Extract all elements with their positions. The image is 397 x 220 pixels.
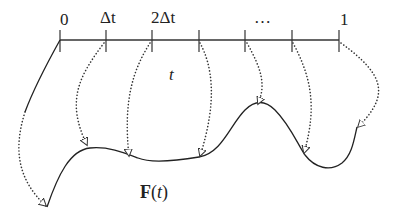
time-axis (60, 30, 339, 52)
mapping-arrows (19, 43, 379, 206)
tick-label-0: 0 (60, 10, 69, 29)
map-arrow-5 (293, 43, 311, 153)
map-arrow-3 (200, 43, 211, 156)
map-arrow-dt (76, 43, 104, 145)
map-arrow-0 (19, 112, 46, 206)
start-connector-line (25, 40, 60, 112)
tick-label-2dt: 2Δt (151, 8, 175, 27)
tick-label-ellipsis: … (254, 8, 274, 27)
tick-label-1: 1 (340, 10, 349, 29)
map-arrow-1 (341, 43, 379, 127)
curve-label: F(t) (140, 182, 168, 203)
parameter-mapping-diagram: 0 Δt 2Δt … 1 t F(t) (0, 0, 397, 220)
tick-label-dt: Δt (100, 8, 116, 27)
map-arrow-2dt (127, 43, 150, 156)
map-arrow-4 (247, 43, 262, 104)
axis-variable-label: t (169, 65, 175, 84)
